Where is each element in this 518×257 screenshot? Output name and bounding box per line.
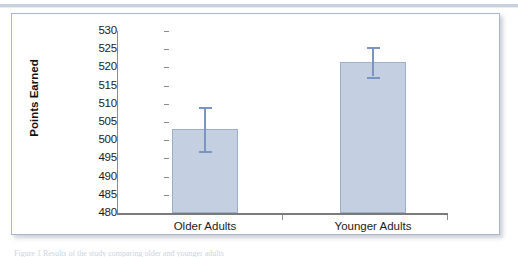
- y-axis-tick-label: 525: [77, 43, 117, 55]
- error-bar-cap-lower: [367, 77, 380, 79]
- x-axis-minor-tick: [447, 215, 448, 220]
- error-bar-line: [204, 107, 206, 151]
- figure-frame: Points Earned 53052552051551050550049549…: [11, 13, 500, 235]
- x-axis-category-label: Older Adults: [145, 220, 265, 232]
- y-axis-tick-label: 505: [77, 116, 117, 128]
- y-axis-tick-label: 495: [77, 152, 117, 164]
- y-axis-tick-label: 515: [77, 80, 117, 92]
- plot-area: [117, 31, 447, 213]
- chart-canvas: Points Earned 53052552051551050550049549…: [12, 14, 499, 234]
- y-axis-tick-label: 520: [77, 61, 117, 73]
- page-top-rule: [0, 4, 518, 7]
- y-axis-tick-group: 530525520515510505500495490485480: [64, 14, 117, 236]
- y-axis-tick-label: 480: [77, 207, 117, 219]
- x-axis-category-label: Younger Adults: [313, 220, 433, 232]
- y-axis-tick-label: 530: [77, 25, 117, 37]
- y-axis-tick-label: 490: [77, 171, 117, 183]
- y-axis-tick-label: 500: [77, 134, 117, 146]
- error-bar-line: [372, 47, 374, 76]
- error-bar-cap-upper: [367, 47, 380, 49]
- bar-younger-adults: [340, 62, 406, 213]
- y-axis-tick-label: 510: [77, 98, 117, 110]
- y-axis-title: Points Earned: [28, 46, 40, 150]
- error-bar-cap-upper: [199, 107, 212, 109]
- y-axis-tick-label: 485: [77, 189, 117, 201]
- error-bar-cap-lower: [199, 151, 212, 153]
- x-axis-minor-tick: [282, 215, 283, 220]
- figure-caption-sliver: Figure 1 Results of the study comparing …: [14, 249, 504, 257]
